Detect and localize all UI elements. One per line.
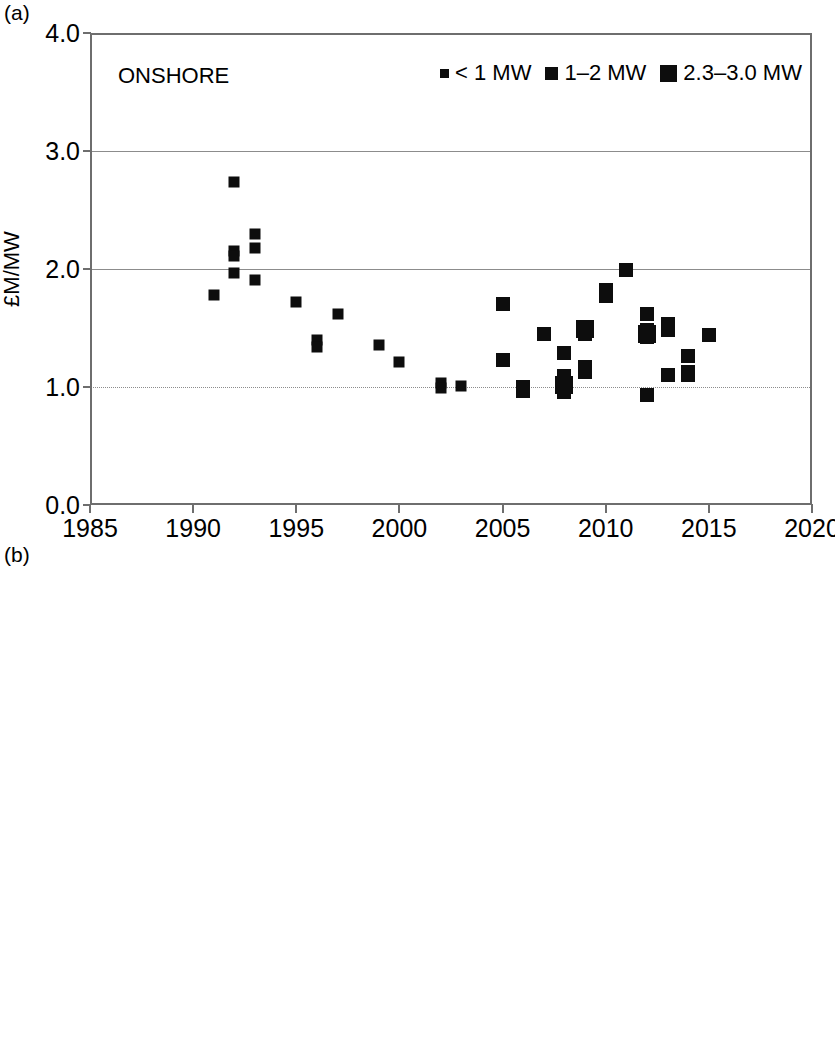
- data-point: [661, 323, 675, 337]
- data-point: [578, 365, 592, 379]
- data-point: [456, 380, 467, 391]
- panel-label-a: (a): [4, 2, 30, 24]
- x-tick: [708, 504, 710, 513]
- panel-label-b: (b): [4, 544, 30, 566]
- legend-onshore: < 1 MW1–2 MW2.3–3.0 MW: [440, 62, 802, 84]
- data-point: [576, 320, 594, 338]
- data-point: [373, 339, 384, 350]
- x-tick-label: 2020: [784, 516, 835, 541]
- data-point: [681, 349, 695, 363]
- gridline-y-3.0: [90, 151, 812, 152]
- data-point: [537, 327, 551, 341]
- axis-top: [90, 33, 812, 35]
- x-tick-label: 1985: [62, 516, 118, 541]
- y-tick: [83, 386, 91, 388]
- x-tick: [398, 504, 400, 513]
- data-point: [640, 307, 654, 321]
- y-tick-label: 2.0: [45, 257, 80, 282]
- data-point: [229, 251, 240, 262]
- legend-onshore-item[interactable]: 1–2 MW: [545, 62, 646, 84]
- x-tick: [811, 504, 813, 513]
- data-point: [681, 368, 695, 382]
- data-point: [555, 376, 573, 394]
- data-point: [311, 341, 322, 352]
- panel-offshore: (b) 0.01.02.03.04.05.0 19901995200020052…: [0, 540, 835, 1062]
- axis-right: [810, 33, 812, 505]
- y-tick: [83, 150, 91, 152]
- panel-onshore: (a) 0.01.02.03.04.0 19851990199520002005…: [0, 0, 835, 540]
- legend-onshore-item[interactable]: 2.3–3.0 MW: [660, 62, 802, 84]
- legend-swatch-icon: [545, 67, 558, 80]
- data-point: [208, 289, 219, 300]
- data-point: [291, 297, 302, 308]
- data-point: [250, 242, 261, 253]
- data-point: [640, 388, 654, 402]
- data-point: [702, 328, 716, 342]
- data-point: [229, 267, 240, 278]
- data-point: [557, 346, 571, 360]
- legend-label: 1–2 MW: [564, 62, 646, 84]
- axis-bottom: [90, 503, 812, 505]
- legend-label: < 1 MW: [455, 62, 531, 84]
- data-point: [435, 383, 446, 394]
- y-tick-label: 4.0: [45, 21, 80, 46]
- x-tick: [192, 504, 194, 513]
- x-tick-label: 2010: [578, 516, 634, 541]
- x-tick-label: 2005: [475, 516, 531, 541]
- y-tick: [83, 32, 91, 34]
- data-point: [619, 263, 633, 277]
- gridline-y-1.0: [90, 387, 812, 388]
- data-point: [661, 368, 675, 382]
- data-point: [496, 353, 510, 367]
- y-tick-label: 1.0: [45, 375, 80, 400]
- data-point: [638, 325, 656, 343]
- data-point: [250, 228, 261, 239]
- gridline-y-2.0: [90, 269, 812, 270]
- x-tick-label: 1995: [268, 516, 324, 541]
- data-point: [250, 274, 261, 285]
- legend-swatch-icon: [440, 69, 449, 78]
- x-tick: [605, 504, 607, 513]
- y-tick: [83, 268, 91, 270]
- annotation-onshore: ONSHORE: [118, 62, 229, 89]
- data-point: [332, 308, 343, 319]
- data-point: [516, 384, 530, 398]
- legend-label: 2.3–3.0 MW: [683, 62, 802, 84]
- x-tick: [295, 504, 297, 513]
- plot-area-onshore: 0.01.02.03.04.0 198519901995200020052010…: [90, 33, 812, 505]
- figure-wind-cost-per-mw: (a) 0.01.02.03.04.0 19851990199520002005…: [0, 0, 835, 1062]
- x-tick-label: 2000: [372, 516, 428, 541]
- y-tick-label: 3.0: [45, 139, 80, 164]
- x-tick: [89, 504, 91, 513]
- data-point: [599, 289, 613, 303]
- data-point: [229, 176, 240, 187]
- x-tick: [502, 504, 504, 513]
- legend-swatch-icon: [660, 65, 677, 82]
- data-point: [496, 297, 510, 311]
- legend-onshore-item[interactable]: < 1 MW: [440, 62, 531, 84]
- x-tick-label: 1990: [165, 516, 221, 541]
- data-point: [394, 357, 405, 368]
- x-tick-label: 2015: [681, 516, 737, 541]
- y-axis-title-onshore: £M/MW: [1, 231, 23, 307]
